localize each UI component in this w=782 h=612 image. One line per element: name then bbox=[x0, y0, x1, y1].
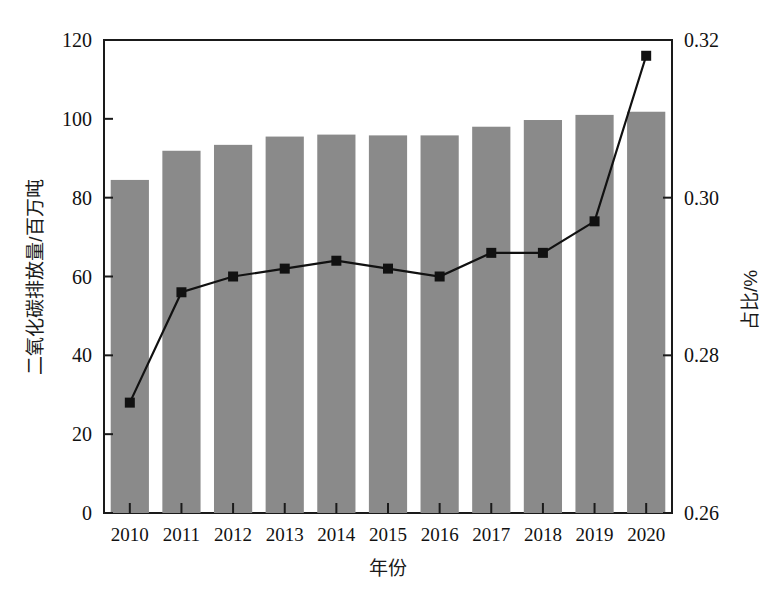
bar bbox=[472, 127, 510, 513]
bar bbox=[369, 135, 407, 513]
y2-tick-label: 0.32 bbox=[684, 29, 719, 51]
line-marker bbox=[331, 256, 341, 266]
bar-series bbox=[111, 112, 666, 513]
line-marker bbox=[486, 248, 496, 258]
x-tick-label: 2013 bbox=[266, 524, 304, 545]
y2-tick-label: 0.30 bbox=[684, 187, 719, 209]
bar bbox=[575, 115, 613, 513]
x-tick-label: 2010 bbox=[111, 524, 149, 545]
y-tick-label: 100 bbox=[62, 108, 92, 130]
x-tick-label: 2017 bbox=[472, 524, 510, 545]
y-axis-ticks: 020406080100120 bbox=[62, 29, 113, 524]
y2-tick-label: 0.26 bbox=[684, 502, 719, 524]
bar bbox=[421, 135, 459, 513]
x-tick-label: 2016 bbox=[421, 524, 459, 545]
x-tick-label: 2012 bbox=[214, 524, 252, 545]
chart-svg: 020406080100120 0.260.280.300.32 2010201… bbox=[0, 0, 782, 612]
chart-figure: 020406080100120 0.260.280.300.32 2010201… bbox=[0, 0, 782, 612]
line-marker bbox=[383, 264, 393, 274]
bar bbox=[162, 151, 200, 513]
y-tick-label: 40 bbox=[72, 344, 92, 366]
bar bbox=[524, 120, 562, 513]
x-tick-label: 2015 bbox=[369, 524, 407, 545]
y-tick-label: 120 bbox=[62, 29, 92, 51]
line-marker bbox=[641, 51, 651, 61]
x-tick-label: 2014 bbox=[317, 524, 356, 545]
x-tick-label: 2011 bbox=[163, 524, 200, 545]
bar bbox=[111, 180, 149, 513]
y-axis-title: 二氧化碳排放量/百万吨 bbox=[25, 179, 46, 374]
line-marker bbox=[590, 216, 600, 226]
y-tick-label: 60 bbox=[72, 266, 92, 288]
bar bbox=[266, 137, 304, 513]
line-marker bbox=[176, 287, 186, 297]
y-tick-label: 80 bbox=[72, 187, 92, 209]
y-tick-label: 20 bbox=[72, 423, 92, 445]
line-marker bbox=[435, 272, 445, 282]
bar bbox=[317, 135, 355, 513]
x-tick-label: 2018 bbox=[524, 524, 562, 545]
bar bbox=[627, 112, 665, 513]
y2-tick-label: 0.28 bbox=[684, 344, 719, 366]
bar bbox=[214, 145, 252, 513]
x-tick-label: 2020 bbox=[627, 524, 665, 545]
line-marker bbox=[280, 264, 290, 274]
y-tick-label: 0 bbox=[82, 502, 92, 524]
x-tick-label: 2019 bbox=[576, 524, 614, 545]
line-marker bbox=[538, 248, 548, 258]
line-marker bbox=[125, 398, 135, 408]
y2-axis-title: 占比/% bbox=[740, 270, 761, 330]
x-axis-title: 年份 bbox=[369, 558, 407, 579]
line-marker bbox=[228, 272, 238, 282]
